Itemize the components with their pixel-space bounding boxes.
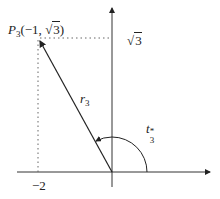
angle-label-t3-star: t*3 xyxy=(146,122,156,135)
point-label: P3(−1, √3) xyxy=(8,23,64,39)
angle-arc xyxy=(96,137,147,172)
vector-r3 xyxy=(40,41,112,172)
y-tick-sqrt3: √3 xyxy=(127,34,142,47)
vector-label-r3: r3 xyxy=(80,92,90,108)
x-tick-minus2: −2 xyxy=(32,179,46,192)
